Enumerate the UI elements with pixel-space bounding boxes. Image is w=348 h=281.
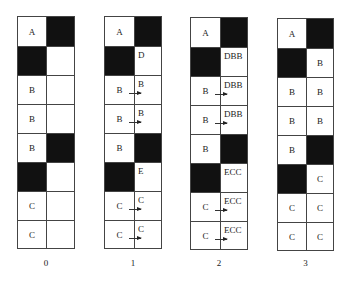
left-cell: C	[105, 192, 134, 220]
left-cell: B	[105, 134, 134, 162]
cell-label: A	[278, 29, 306, 38]
state-column-0: ABBBCC	[17, 16, 75, 249]
left-cell: C	[105, 221, 134, 249]
right-cell: ECC	[220, 193, 247, 221]
cell-label: C	[18, 231, 46, 240]
left-cell: B	[191, 135, 220, 163]
cell-label: C	[307, 233, 333, 242]
grid-row: BB	[278, 77, 333, 106]
left-cell: B	[105, 76, 134, 104]
left-cell: C	[191, 222, 220, 250]
cell-label: C	[307, 204, 333, 213]
cell-label: DBB	[224, 81, 243, 90]
left-cell-filled	[191, 164, 220, 192]
left-cell: B	[278, 107, 306, 135]
grid-row: B	[18, 133, 74, 162]
arrow-right-icon	[129, 209, 141, 210]
left-cell: C	[18, 221, 46, 249]
right-cell: B	[306, 107, 333, 135]
grid-row: D	[105, 46, 161, 75]
cell-label: C	[18, 202, 46, 211]
cell-label: DBB	[224, 110, 243, 119]
grid-row: CC	[278, 193, 333, 222]
grid-row: CC	[105, 220, 161, 249]
arrow-right-icon	[129, 122, 141, 123]
grid-row: DBB	[191, 47, 247, 76]
left-cell: B	[18, 105, 46, 133]
grid-row: B	[278, 135, 333, 164]
grid-row: B	[278, 48, 333, 77]
right-cell: C	[134, 192, 161, 220]
grid-row	[18, 46, 74, 75]
grid-row: ECC	[191, 163, 247, 192]
cell-label: B	[307, 88, 333, 97]
left-cell: C	[278, 223, 306, 251]
right-cell: C	[134, 221, 161, 249]
left-cell: A	[191, 18, 220, 47]
state-column-2: ADBBBDBBBDBBBECCCECCCECC	[190, 17, 248, 250]
right-cell-filled	[306, 136, 333, 164]
left-cell: C	[18, 192, 46, 220]
cell-label: B	[105, 144, 134, 153]
arrow-right-icon	[215, 94, 227, 95]
cell-label: B	[191, 145, 220, 154]
state-column-1: ADBBBBBECCCC	[104, 16, 162, 249]
right-cell: B	[134, 105, 161, 133]
cell-label: B	[278, 146, 306, 155]
left-cell: A	[105, 17, 134, 46]
right-cell: C	[306, 165, 333, 193]
arrow-right-icon	[215, 239, 227, 240]
right-cell-filled	[134, 17, 161, 46]
grid-row	[18, 162, 74, 191]
grid-row: CECC	[191, 192, 247, 221]
left-cell-filled	[278, 49, 306, 77]
cell-label: B	[18, 144, 46, 153]
right-cell-filled	[46, 17, 74, 46]
right-cell: B	[134, 76, 161, 104]
right-cell: DBB	[220, 106, 247, 134]
right-cell: B	[306, 78, 333, 106]
column-step-label: 1	[123, 258, 143, 268]
right-cell-filled	[306, 19, 333, 48]
right-cell-filled	[220, 135, 247, 163]
left-cell: B	[191, 106, 220, 134]
left-cell: B	[105, 105, 134, 133]
grid-row: BB	[278, 106, 333, 135]
right-cell	[46, 221, 74, 249]
grid-row: B	[18, 75, 74, 104]
column-step-label: 0	[36, 258, 56, 268]
cell-label: A	[191, 28, 220, 37]
column-step-label: 2	[209, 258, 229, 268]
right-cell	[46, 105, 74, 133]
right-cell: E	[134, 163, 161, 191]
grid-row: B	[191, 134, 247, 163]
right-cell: D	[134, 47, 161, 75]
grid-row: CECC	[191, 221, 247, 250]
left-cell: B	[278, 136, 306, 164]
left-cell-filled	[191, 48, 220, 76]
right-cell	[46, 47, 74, 75]
grid-row: B	[18, 104, 74, 133]
right-cell: ECC	[220, 222, 247, 250]
right-cell	[46, 76, 74, 104]
arrow-right-icon	[129, 93, 141, 94]
cell-label: B	[307, 59, 333, 68]
right-cell	[46, 192, 74, 220]
right-cell	[46, 163, 74, 191]
cell-label: B	[18, 115, 46, 124]
arrow-right-icon	[215, 123, 227, 124]
grid-row: E	[105, 162, 161, 191]
right-cell: B	[306, 49, 333, 77]
left-cell-filled	[18, 47, 46, 75]
cell-label: DBB	[224, 52, 243, 61]
cell-label: B	[278, 88, 306, 97]
right-cell: ECC	[220, 164, 247, 192]
right-cell: DBB	[220, 48, 247, 76]
cell-label: B	[307, 117, 333, 126]
right-cell-filled	[46, 134, 74, 162]
cell-label: C	[278, 204, 306, 213]
grid-row: A	[278, 19, 333, 48]
cell-label: C	[138, 225, 144, 234]
cell-label: A	[105, 27, 134, 36]
grid-row: BB	[105, 75, 161, 104]
